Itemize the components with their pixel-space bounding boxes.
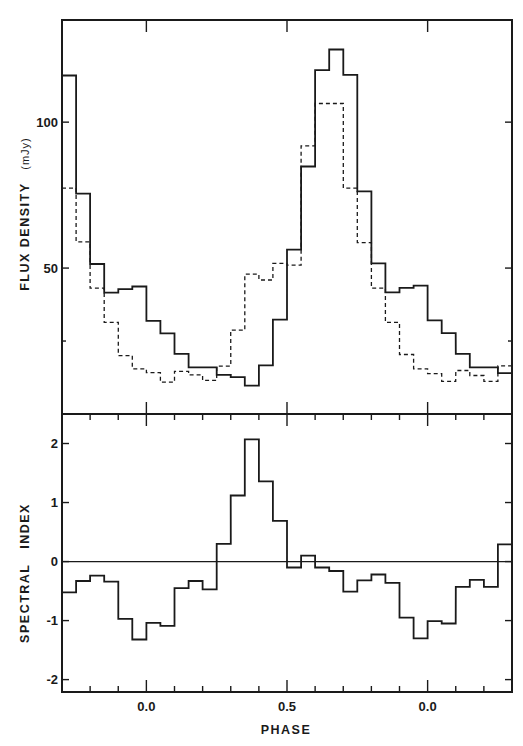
spectral-index-axis-title: SPECTRAL INDEX — [18, 503, 32, 643]
spectral-index-panel: 210-1-20.00.50.0 — [46, 414, 512, 714]
flux-density-unit: (mJy) — [19, 137, 31, 170]
phase-plot-figure: 50100 210-1-20.00.50.0 FLUX DENSITY (mJy… — [0, 0, 523, 746]
y-tick-label: -1 — [46, 613, 58, 628]
x-tick-label: 0.5 — [278, 699, 296, 714]
phase-axis-title: PHASE — [261, 723, 312, 737]
y-tick-label: 100 — [36, 115, 58, 130]
flux-density-panel: 50100 — [36, 20, 512, 414]
dashed-series-line — [62, 104, 512, 383]
x-tick-label: 0.0 — [419, 699, 437, 714]
solid-series-line — [62, 50, 512, 386]
y-tick-label: 2 — [51, 436, 58, 451]
chart-canvas: 50100 210-1-20.00.50.0 FLUX DENSITY (mJy… — [0, 0, 523, 746]
top-panel-frame — [62, 20, 512, 414]
flux-density-axis-title: FLUX DENSITY (mJy) — [18, 137, 32, 291]
y-tick-label: 1 — [51, 495, 58, 510]
y-tick-label: 0 — [51, 554, 58, 569]
x-tick-label: 0.0 — [137, 699, 155, 714]
y-tick-label: 50 — [44, 261, 58, 276]
y-tick-label: -2 — [46, 672, 58, 687]
spectral-index-series-line — [62, 439, 512, 639]
flux-density-label: FLUX DENSITY — [18, 183, 32, 291]
